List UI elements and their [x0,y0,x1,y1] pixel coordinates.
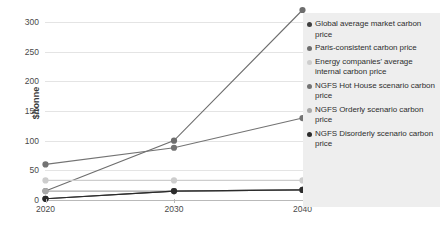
data-point-marker [42,177,48,183]
legend-item[interactable]: Energy companies' average internal carbo… [306,57,437,78]
data-point-marker [171,177,177,183]
legend-item[interactable]: NGFS Orderly scenario carbon price [306,105,437,126]
x-axis-tick-mark [46,199,47,203]
legend-item-label: Global average market carbon price [315,19,437,40]
y-axis-tick-label: 250 [25,47,39,57]
data-point-marker [171,145,177,151]
legend-marker-icon [306,129,315,140]
legend-item[interactable]: Paris-consistent carbon price [306,43,437,54]
series-1 [42,7,305,194]
legend-marker-icon [306,81,315,92]
legend-item[interactable]: Global average market carbon price [306,19,437,40]
legend-marker-icon [306,19,315,30]
x-axis-tick-label: 2030 [165,204,184,214]
legend-item[interactable]: NGFS Disorderly scenario carbon price [306,129,437,150]
legend-item-label: NGFS Hot House scenario carbon price [315,81,437,102]
chart-legend: Global average market carbon priceParis-… [303,13,440,207]
legend-item-label: NGFS Disorderly scenario carbon price [315,129,437,150]
legend-item-label: Energy companies' average internal carbo… [315,57,437,78]
x-axis-tick-labels: 202020302040 [45,204,303,218]
y-axis-tick-label: 100 [25,136,39,146]
data-point-marker [171,188,177,194]
x-axis-tick-mark [174,199,175,203]
series-2 [42,177,305,183]
data-point-marker [42,188,48,194]
plot-area [45,10,303,200]
legend-item-label: NGFS Orderly scenario carbon price [315,105,437,126]
legend-item-label: Paris-consistent carbon price [315,43,437,54]
series-line [46,10,303,191]
series-container [45,10,303,200]
y-axis-tick-label: 50 [30,165,39,175]
data-point-marker [171,138,177,144]
y-axis-tick-label: 200 [25,76,39,86]
y-axis-tick-label: 300 [25,17,39,27]
carbon-price-line-chart: $/tonne 050100150200250300 202020302040 … [0,0,443,225]
y-axis-tick-label: 150 [25,106,39,116]
legend-marker-icon [306,57,315,68]
legend-item[interactable]: NGFS Hot House scenario carbon price [306,81,437,102]
legend-marker-icon [306,105,315,116]
data-point-marker [42,161,48,167]
y-axis-tick-labels: 050100150200250300 [0,10,45,200]
legend-marker-icon [306,43,315,54]
x-axis-tick-label: 2020 [36,204,55,214]
